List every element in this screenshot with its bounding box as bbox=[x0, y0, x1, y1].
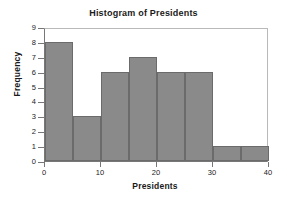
y-axis-tick-label: 0 bbox=[18, 158, 36, 166]
x-axis-tick-label: 10 bbox=[90, 169, 110, 177]
y-axis-tick-label: 6 bbox=[18, 69, 36, 77]
x-axis-tick bbox=[156, 162, 157, 167]
histogram-bar bbox=[101, 72, 129, 161]
plot-area bbox=[44, 28, 268, 162]
histogram-bar bbox=[157, 72, 185, 161]
x-axis-tick bbox=[100, 162, 101, 167]
y-axis-tick-label: 7 bbox=[18, 54, 36, 62]
histogram-bar bbox=[241, 146, 269, 161]
x-axis-tick bbox=[212, 162, 213, 167]
histogram-bar bbox=[185, 72, 213, 161]
x-axis-tick bbox=[44, 162, 45, 167]
y-axis-tick-label: 3 bbox=[18, 113, 36, 121]
y-axis-tick-label: 5 bbox=[18, 84, 36, 92]
y-axis-tick-label: 4 bbox=[18, 98, 36, 106]
histogram-figure: Histogram of Presidents Frequency Presid… bbox=[0, 0, 287, 199]
y-axis-tick-label: 8 bbox=[18, 39, 36, 47]
x-axis-tick-label: 40 bbox=[258, 169, 278, 177]
y-axis-tick-label: 1 bbox=[18, 143, 36, 151]
bar-series bbox=[45, 29, 267, 161]
chart-title: Histogram of Presidents bbox=[0, 8, 287, 18]
x-axis-tick bbox=[268, 162, 269, 167]
x-axis-tick-label: 20 bbox=[146, 169, 166, 177]
x-axis-tick-label: 30 bbox=[202, 169, 222, 177]
x-axis-tick-label: 0 bbox=[34, 169, 54, 177]
histogram-bar bbox=[73, 116, 101, 161]
histogram-bar bbox=[45, 42, 73, 161]
y-axis-tick-label: 9 bbox=[18, 24, 36, 32]
histogram-bar bbox=[129, 57, 157, 161]
histogram-bar bbox=[213, 146, 241, 161]
x-axis-title: Presidents bbox=[44, 181, 266, 191]
y-axis-tick-label: 2 bbox=[18, 128, 36, 136]
